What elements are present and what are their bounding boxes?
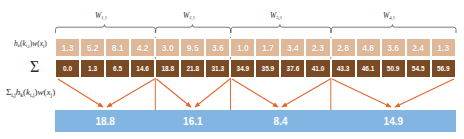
table-cell: 4.8 — [356, 38, 381, 57]
weighted-kernel-row: 1.3 5.2 8.1 4.2 3.0 9.5 3.6 1.0 1.7 3.4 … — [55, 38, 456, 57]
window-output-cell: 16.1 — [155, 110, 230, 132]
prefix-sum-arrows — [58, 79, 454, 107]
window-label-3-sub: 3,1 — [276, 15, 282, 20]
table-cell: 4.2 — [130, 38, 155, 57]
row-label-weighted-kernel: hk(ki,j)w(xj) — [14, 40, 47, 49]
table-cell: 2.4 — [406, 38, 431, 57]
table-cell: 3.6 — [205, 38, 230, 57]
table-cell: 21.8 — [180, 59, 205, 78]
table-cell: 2.8 — [331, 38, 356, 57]
window-label-1-sub: 1,1 — [101, 15, 107, 20]
row-label-window-sum: Σi,jhk(ki,j)w(xj) — [6, 88, 55, 98]
window-label-4: W4,1 — [383, 12, 395, 21]
table-cell: 50.9 — [381, 59, 406, 78]
window-output-cell: 18.8 — [55, 110, 155, 132]
table-cell: 3.4 — [280, 38, 305, 57]
table-cell: 1.3 — [431, 38, 456, 57]
window-label-2: W2,1 — [183, 12, 195, 21]
window-braces — [56, 25, 457, 33]
table-cell: 43.3 — [331, 59, 356, 78]
table-cell: 1.3 — [80, 59, 105, 78]
prefix-sum-row: 0.0 1.3 6.5 14.6 18.8 21.8 31.3 34.9 35.… — [55, 59, 456, 78]
window-output-row: 18.8 16.1 8.4 14.9 — [55, 110, 456, 132]
table-cell: 56.9 — [431, 59, 456, 78]
table-cell: 54.5 — [406, 59, 431, 78]
window-label-3: W3,1 — [270, 12, 282, 21]
window-label-4-sub: 4,1 — [389, 15, 395, 20]
table-cell: 37.6 — [280, 59, 305, 78]
figure-canvas: W1,1 W2,1 W3,1 W4,1 hk(ki,j)w(xj) Σ Σi,j… — [0, 0, 464, 139]
table-cell: 41.0 — [305, 59, 330, 78]
table-cell: 1.0 — [230, 38, 255, 57]
table-cell: 3.6 — [381, 38, 406, 57]
window-output-cell: 14.9 — [331, 110, 456, 132]
window-label-2-sub: 2,1 — [189, 15, 195, 20]
window-output-cell: 8.4 — [230, 110, 330, 132]
table-cell: 3.0 — [155, 38, 180, 57]
table-cell: 5.2 — [80, 38, 105, 57]
table-cell: 46.1 — [356, 59, 381, 78]
table-cell: 1.3 — [55, 38, 80, 57]
row-label-sigma: Σ — [30, 59, 39, 75]
table-cell: 0.0 — [55, 59, 80, 78]
table-cell: 35.9 — [255, 59, 280, 78]
table-cell: 18.8 — [155, 59, 180, 78]
table-cell: 6.5 — [105, 59, 130, 78]
table-cell: 8.1 — [105, 38, 130, 57]
table-cell: 9.5 — [180, 38, 205, 57]
table-cell: 34.9 — [230, 59, 255, 78]
table-cell: 31.3 — [205, 59, 230, 78]
window-label-1: W1,1 — [95, 12, 107, 21]
table-cell: 1.7 — [255, 38, 280, 57]
table-cell: 14.6 — [130, 59, 155, 78]
table-cell: 2.3 — [305, 38, 330, 57]
